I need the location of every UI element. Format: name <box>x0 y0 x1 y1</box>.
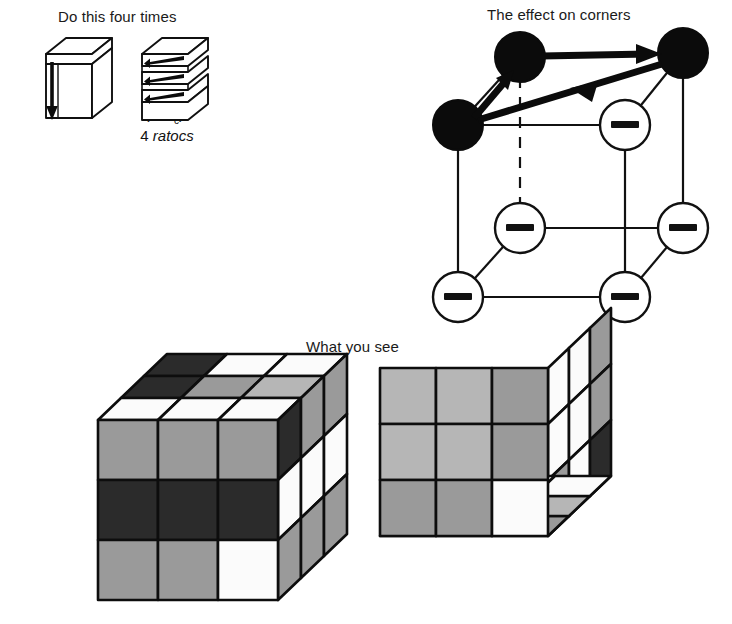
corner-filled-top-front-left <box>433 100 483 150</box>
caption-what-you-see: What you see <box>306 338 399 355</box>
left-cube-front-r3c3 <box>218 540 278 600</box>
corner-minus-bottom-front-left <box>433 272 483 322</box>
right-cube-front-r1c3 <box>492 368 548 424</box>
corner-filled-top-back-left <box>495 32 545 82</box>
left-cube-front-r1c1 <box>98 420 158 480</box>
right-cube-front-r3c3 <box>492 480 548 536</box>
left-cube-front-r2c2 <box>158 480 218 540</box>
corner-minus-bottom-back-left <box>495 203 545 253</box>
right-cube-front-r1c2 <box>436 368 492 424</box>
right-cube-front-r3c1 <box>380 480 436 536</box>
right-cube-front-r2c3 <box>492 424 548 480</box>
move-diagram <box>44 32 244 132</box>
left-cube-front-r2c1 <box>98 480 158 540</box>
corner-minus-top-front-right <box>600 100 650 150</box>
corner-minus-bottom-back-right <box>658 203 708 253</box>
right-cube-front-r1c1 <box>380 368 436 424</box>
caption-do-this-four-times: Do this four times <box>58 8 177 25</box>
result-cubes-panel <box>80 360 660 624</box>
corner-filled-top-back-right <box>658 28 708 78</box>
corner-cube-diagram: top-back-right --> top-front-left (long … <box>430 20 720 330</box>
cycle-arrow-1 <box>542 44 662 64</box>
left-result-cube <box>98 354 347 600</box>
left-cube-front-r3c1 <box>98 540 158 600</box>
left-cube-front-r3c2 <box>158 540 218 600</box>
right-cube-front-r2c2 <box>436 424 492 480</box>
right-cube-front-r2c1 <box>380 424 436 480</box>
left-cube-front-r1c3 <box>218 420 278 480</box>
left-cube-front-r1c2 <box>158 420 218 480</box>
left-cube-front-r2c3 <box>218 480 278 540</box>
right-result-cube <box>380 308 611 536</box>
right-cube-front-r3c2 <box>436 480 492 536</box>
